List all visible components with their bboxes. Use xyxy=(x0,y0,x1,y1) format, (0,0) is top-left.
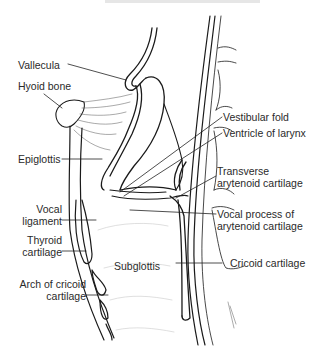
subglottis-contours xyxy=(98,223,174,332)
label-line: Vocal process of xyxy=(217,208,303,220)
anterior-cartilage-wall xyxy=(69,126,114,340)
label-vallecula: Vallecula xyxy=(18,59,60,71)
label-thyroid-cartilage: Thyroid cartilage xyxy=(14,234,62,258)
label-vocal-process-of-arytenoid-cartilage: Vocal process of arytenoid cartilage xyxy=(217,208,303,232)
larynx-sagittal-diagram: Vallecula Hyoid bone Epiglottis Vocal li… xyxy=(0,0,318,363)
label-vestibular-fold: Vestibular fold xyxy=(223,111,289,123)
label-line: arytenoid cartilage xyxy=(217,220,303,232)
label-ventricle-of-larynx: Ventricle of larynx xyxy=(223,127,306,139)
label-vocal-ligament: Vocal ligament xyxy=(20,203,62,227)
illustrator-signature xyxy=(228,302,236,328)
label-line: Thyroid xyxy=(14,234,62,246)
label-line: Transverse xyxy=(217,165,303,177)
hyoid-bone-shape xyxy=(56,100,84,127)
label-line: Arch of cricoid xyxy=(14,278,86,290)
label-line: arytenoid cartilage xyxy=(217,177,303,189)
label-subglottis: Subglottis xyxy=(114,260,160,272)
vertebral-outline xyxy=(212,47,244,269)
label-arch-of-cricoid-cartilage: Arch of cricoid cartilage xyxy=(14,278,86,302)
epiglottis-outline xyxy=(101,28,164,190)
label-line: cartilage xyxy=(14,246,62,258)
label-hyoid-bone: Hyoid bone xyxy=(18,80,71,92)
label-line: cartilage xyxy=(14,290,86,302)
label-line: ligament xyxy=(20,215,62,227)
label-transverse-arytenoid-cartilage: Transverse arytenoid cartilage xyxy=(217,165,303,189)
label-epiglottis: Epiglottis xyxy=(18,153,61,165)
label-cricoid-cartilage: Cricoid cartilage xyxy=(230,257,305,269)
label-line: Vocal xyxy=(20,203,62,215)
